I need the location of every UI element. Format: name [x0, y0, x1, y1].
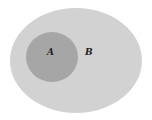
set-a-label: A: [47, 48, 54, 57]
set-a-circle: [26, 32, 78, 82]
set-b-label: B: [85, 48, 93, 57]
venn-diagram: A B: [0, 0, 152, 120]
